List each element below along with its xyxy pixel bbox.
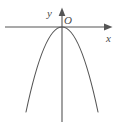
x-axis-arrowhead: [104, 24, 113, 31]
coordinate-plane-svg: y O x: [0, 0, 122, 130]
parabola-figure: y O x: [0, 0, 122, 130]
origin-label: O: [64, 14, 72, 26]
y-axis-label: y: [46, 7, 52, 19]
x-axis-label: x: [105, 32, 111, 44]
